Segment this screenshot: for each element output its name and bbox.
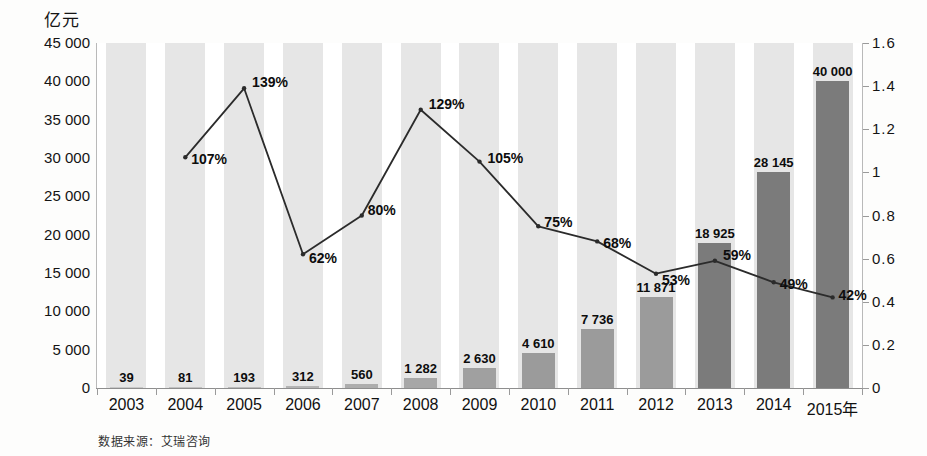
x-axis-tick-label: 2010 (521, 396, 557, 414)
y-axis-tick: 5 000 (8, 341, 90, 358)
bar-value-label: 4 610 (522, 336, 555, 351)
y-axis-tick: 0 (8, 379, 90, 396)
y-axis-tick: 15 000 (8, 264, 90, 281)
bar (110, 387, 143, 389)
background-stripe (106, 43, 146, 388)
secondary-y-axis-tick: 1.2 (872, 120, 896, 137)
secondary-y-axis-tick: 1 (872, 163, 881, 180)
growth-rate-value-label: 75% (544, 214, 572, 230)
secondary-y-axis-tick-mark (863, 129, 869, 130)
x-axis-tick-mark (450, 388, 451, 395)
secondary-y-axis-tick: 0.4 (872, 293, 896, 310)
background-stripe (224, 43, 264, 388)
growth-rate-value-label: 49% (780, 276, 808, 292)
growth-rate-value-label: 105% (488, 150, 524, 166)
source-note: 数据来源：艾瑞咨询 (98, 432, 211, 449)
y-axis-tick-labels: 45 00040 00035 00030 00025 00020 00015 0… (4, 0, 90, 456)
secondary-y-axis-tick-mark (863, 43, 869, 44)
x-axis-tick-mark (274, 388, 275, 395)
x-axis-tick-label: 2008 (403, 396, 439, 414)
x-axis-tick-mark (509, 388, 510, 395)
y-axis-tick: 35 000 (8, 111, 90, 128)
x-axis-tick-mark (156, 388, 157, 395)
plot-area (97, 43, 862, 388)
y-axis-tick: 30 000 (8, 149, 90, 166)
x-axis-tick-label: 2009 (462, 396, 498, 414)
secondary-y-axis-tick: 1.6 (872, 34, 896, 51)
x-axis-tick-mark (685, 388, 686, 395)
secondary-y-axis-tick: 0.8 (872, 207, 896, 224)
x-axis-tick-label: 2012 (638, 396, 674, 414)
x-axis-tick-label: 2004 (167, 396, 203, 414)
growth-rate-value-label: 139% (252, 74, 288, 90)
bar (345, 384, 378, 388)
secondary-y-axis-tick-mark (863, 388, 869, 389)
background-stripe (459, 43, 499, 388)
growth-rate-value-label: 68% (603, 235, 631, 251)
y-axis-tick: 10 000 (8, 302, 90, 319)
background-stripe (165, 43, 205, 388)
bar-value-label: 18 925 (695, 226, 735, 241)
bar (698, 243, 731, 388)
x-axis-tick-mark (568, 388, 569, 395)
bar-value-label: 312 (292, 369, 314, 384)
growth-rate-value-label: 59% (723, 247, 751, 263)
secondary-y-axis-tick-mark (863, 302, 869, 303)
x-axis-tick-mark (744, 388, 745, 395)
x-axis-tick-mark (332, 388, 333, 395)
secondary-y-axis-tick: 0.6 (872, 250, 896, 267)
secondary-y-axis-tick-mark (863, 216, 869, 217)
bar (228, 387, 261, 389)
combo-chart: 亿元 45 00040 00035 00030 00025 00020 0001… (0, 0, 927, 456)
bar (581, 329, 614, 388)
x-axis-tick-mark (627, 388, 628, 395)
y-axis-tick: 45 000 (8, 34, 90, 51)
y-axis-tick: 25 000 (8, 187, 90, 204)
secondary-y-axis-tick-mark (863, 172, 869, 173)
secondary-y-axis-tick-mark (863, 345, 869, 346)
x-axis-tick-label: 2007 (344, 396, 380, 414)
x-axis-tick-mark (215, 388, 216, 395)
growth-rate-value-label: 53% (662, 272, 690, 288)
bar (463, 368, 496, 388)
bar (522, 353, 555, 388)
secondary-y-axis-tick-mark (863, 259, 869, 260)
secondary-y-axis-tick: 0 (872, 379, 881, 396)
background-stripe (401, 43, 441, 388)
x-axis-tick-label: 2013 (697, 396, 733, 414)
x-axis-tick-label: 2015年 (807, 396, 859, 420)
left-axis-line (96, 43, 97, 389)
secondary-y-axis-tick-mark (863, 86, 869, 87)
x-axis-tick-label: 2006 (285, 396, 321, 414)
bar-value-label: 7 736 (581, 312, 614, 327)
background-stripe (283, 43, 323, 388)
bar-value-label: 2 630 (463, 351, 496, 366)
secondary-y-axis-labels: 1.61.41.210.80.60.40.20 (872, 0, 927, 456)
x-axis-tick-label: 2005 (226, 396, 262, 414)
background-stripes (97, 43, 862, 388)
x-axis-tick-mark (391, 388, 392, 395)
growth-rate-value-label: 129% (429, 96, 465, 112)
growth-rate-value-label: 80% (368, 202, 396, 218)
bar (169, 387, 202, 389)
x-axis-tick-label: 2011 (580, 396, 614, 414)
bar-value-label: 193 (233, 370, 255, 385)
growth-rate-value-label: 107% (191, 151, 227, 167)
x-axis-tick-label: 2003 (109, 396, 145, 414)
secondary-y-axis-tick: 0.2 (872, 336, 896, 353)
bar-value-label: 28 145 (754, 155, 794, 170)
bar-value-label: 39 (119, 370, 133, 385)
x-axis-tick-mark (97, 388, 98, 395)
bar (640, 297, 673, 388)
bar (286, 386, 319, 388)
bar (816, 81, 849, 388)
x-axis-tick-label: 2014 (756, 396, 792, 414)
y-axis-tick: 40 000 (8, 72, 90, 89)
x-axis-baseline (96, 388, 863, 389)
bar-value-label: 1 282 (404, 361, 437, 376)
growth-rate-value-label: 62% (309, 250, 337, 266)
secondary-y-axis-tick: 1.4 (872, 77, 896, 94)
bar-value-label: 40 000 (813, 64, 853, 79)
bar-value-label: 81 (178, 370, 192, 385)
x-axis-tick-mark (803, 388, 804, 395)
